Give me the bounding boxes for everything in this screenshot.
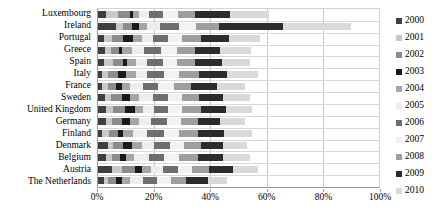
legend-item[interactable]: 2001 bbox=[396, 29, 442, 46]
stacked-bar[interactable] bbox=[98, 166, 379, 173]
bar-segment[interactable] bbox=[147, 130, 164, 137]
bar-segment[interactable] bbox=[160, 23, 180, 30]
bar-segment[interactable] bbox=[230, 11, 269, 18]
bar-segment[interactable] bbox=[184, 142, 201, 149]
bar-segment[interactable] bbox=[106, 106, 113, 113]
bar-segment[interactable] bbox=[226, 106, 253, 113]
bar-segment[interactable] bbox=[151, 166, 162, 173]
bar-segment[interactable] bbox=[139, 11, 149, 18]
bar-segment[interactable] bbox=[164, 71, 179, 78]
bar-segment[interactable] bbox=[126, 154, 134, 161]
bar-segment[interactable] bbox=[98, 106, 106, 113]
bar-segment[interactable] bbox=[130, 118, 138, 125]
bar-segment[interactable] bbox=[118, 71, 126, 78]
stacked-bar[interactable] bbox=[98, 177, 379, 184]
bar-segment[interactable] bbox=[179, 71, 199, 78]
bar-segment[interactable] bbox=[195, 47, 220, 54]
bar-segment[interactable] bbox=[122, 83, 130, 90]
stacked-bar[interactable] bbox=[98, 11, 379, 18]
bar-segment[interactable] bbox=[122, 47, 132, 54]
stacked-bar[interactable] bbox=[98, 130, 379, 137]
bar-segment[interactable] bbox=[139, 94, 153, 101]
bar-segment[interactable] bbox=[112, 35, 123, 42]
bar-segment[interactable] bbox=[109, 130, 117, 137]
bar-segment[interactable] bbox=[199, 71, 227, 78]
bar-segment[interactable] bbox=[147, 59, 162, 66]
bar-segment[interactable] bbox=[113, 59, 123, 66]
bar-segment[interactable] bbox=[98, 11, 106, 18]
bar-segment[interactable] bbox=[136, 71, 147, 78]
stacked-bar[interactable] bbox=[98, 47, 379, 54]
bar-segment[interactable] bbox=[170, 142, 184, 149]
legend-item[interactable]: 2008 bbox=[396, 148, 442, 165]
bar-segment[interactable] bbox=[208, 177, 228, 184]
bar-segment[interactable] bbox=[229, 35, 260, 42]
bar-segment[interactable] bbox=[106, 11, 117, 18]
bar-segment[interactable] bbox=[233, 166, 258, 173]
bar-segment[interactable] bbox=[182, 35, 200, 42]
bar-segment[interactable] bbox=[151, 118, 166, 125]
bar-segment[interactable] bbox=[219, 23, 284, 30]
bar-segment[interactable] bbox=[116, 23, 123, 30]
bar-segment[interactable] bbox=[135, 106, 143, 113]
bar-segment[interactable] bbox=[98, 142, 108, 149]
stacked-bar[interactable] bbox=[98, 106, 379, 113]
bar-segment[interactable] bbox=[113, 142, 123, 149]
bar-segment[interactable] bbox=[127, 59, 135, 66]
bar-segment[interactable] bbox=[163, 59, 177, 66]
bar-segment[interactable] bbox=[186, 177, 207, 184]
bar-segment[interactable] bbox=[104, 59, 114, 66]
bar-segment[interactable] bbox=[135, 166, 142, 173]
bar-segment[interactable] bbox=[147, 23, 160, 30]
bar-segment[interactable] bbox=[118, 11, 131, 18]
bar-segment[interactable] bbox=[182, 94, 199, 101]
stacked-bar[interactable] bbox=[98, 142, 379, 149]
bar-segment[interactable] bbox=[154, 142, 169, 149]
bar-segment[interactable] bbox=[98, 94, 105, 101]
bar-segment[interactable] bbox=[196, 23, 218, 30]
bar-segment[interactable] bbox=[122, 166, 135, 173]
bar-segment[interactable] bbox=[181, 118, 198, 125]
bar-segment[interactable] bbox=[123, 142, 131, 149]
bar-segment[interactable] bbox=[171, 177, 186, 184]
bar-segment[interactable] bbox=[111, 47, 119, 54]
bar-segment[interactable] bbox=[178, 166, 192, 173]
bar-segment[interactable] bbox=[112, 166, 122, 173]
bar-segment[interactable] bbox=[227, 71, 258, 78]
bar-segment[interactable] bbox=[222, 59, 250, 66]
bar-segment[interactable] bbox=[201, 106, 226, 113]
bar-segment[interactable] bbox=[122, 177, 130, 184]
bar-segment[interactable] bbox=[149, 154, 164, 161]
bar-segment[interactable] bbox=[111, 94, 122, 101]
bar-segment[interactable] bbox=[132, 142, 142, 149]
bar-segment[interactable] bbox=[130, 94, 138, 101]
bar-segment[interactable] bbox=[178, 11, 195, 18]
bar-segment[interactable] bbox=[134, 154, 148, 161]
legend-item[interactable]: 2007 bbox=[396, 131, 442, 148]
bar-segment[interactable] bbox=[223, 154, 250, 161]
bar-segment[interactable] bbox=[168, 106, 182, 113]
bar-segment[interactable] bbox=[143, 177, 157, 184]
bar-segment[interactable] bbox=[164, 154, 179, 161]
bar-segment[interactable] bbox=[142, 142, 155, 149]
legend-item[interactable]: 2006 bbox=[396, 114, 442, 131]
bar-segment[interactable] bbox=[112, 154, 120, 161]
bar-segment[interactable] bbox=[198, 118, 220, 125]
legend-item[interactable]: 2004 bbox=[396, 80, 442, 97]
bar-segment[interactable] bbox=[223, 94, 250, 101]
bar-segment[interactable] bbox=[98, 154, 106, 161]
bar-segment[interactable] bbox=[132, 47, 145, 54]
bar-segment[interactable] bbox=[209, 166, 233, 173]
legend-item[interactable]: 2000 bbox=[396, 12, 442, 29]
bar-segment[interactable] bbox=[198, 130, 225, 137]
bar-segment[interactable] bbox=[139, 118, 152, 125]
bar-segment[interactable] bbox=[198, 154, 223, 161]
bar-segment[interactable] bbox=[132, 23, 139, 30]
bar-segment[interactable] bbox=[122, 94, 130, 101]
bar-segment[interactable] bbox=[191, 83, 218, 90]
bar-segment[interactable] bbox=[167, 118, 181, 125]
bar-segment[interactable] bbox=[149, 11, 163, 18]
legend-item[interactable]: 2009 bbox=[396, 165, 442, 182]
bar-segment[interactable] bbox=[163, 166, 178, 173]
bar-segment[interactable] bbox=[177, 59, 195, 66]
